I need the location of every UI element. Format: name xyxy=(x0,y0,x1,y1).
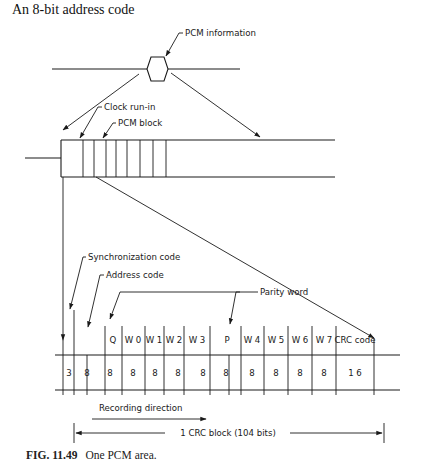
pcm-information-hexagon xyxy=(147,57,168,81)
crc-block-structure: Synchronization code Address code Parity… xyxy=(55,252,400,443)
figure-caption-text: One PCM area. xyxy=(85,449,156,461)
label-address-code: Address code xyxy=(106,270,164,280)
label-pcm-information: PCM information xyxy=(185,28,256,38)
field-label-p: P xyxy=(224,335,229,345)
field-label-w3: W 3 xyxy=(189,335,206,345)
pcm-area-diagram: PCM information Clock run-in PCM block S… xyxy=(0,0,421,473)
bits-w1: 8 xyxy=(152,368,157,378)
bits-sync: 3 xyxy=(66,368,71,378)
bits-crc: 1 6 xyxy=(348,368,362,378)
field-label-w4: W 4 xyxy=(244,335,261,345)
bits-w3: 8 xyxy=(200,368,205,378)
bits-w7: 8 xyxy=(321,368,326,378)
bits-w2: 8 xyxy=(175,368,180,378)
bits-w5: 8 xyxy=(273,368,278,378)
label-crc-block-span: 1 CRC block (104 bits) xyxy=(180,428,276,438)
field-label-w5: W 5 xyxy=(268,335,285,345)
figure-number: FIG. 11.49 xyxy=(26,449,77,461)
field-label-w0: W 0 xyxy=(125,335,142,345)
label-synchronization-code: Synchronization code xyxy=(88,252,180,262)
bits-q: 8 xyxy=(107,368,112,378)
bits-w6: 8 xyxy=(297,368,302,378)
label-pcm-block: PCM block xyxy=(118,118,162,128)
field-label-crc: CRC code xyxy=(334,335,375,345)
bits-address: 8 xyxy=(84,368,89,378)
field-label-w6: W 6 xyxy=(292,335,309,345)
field-label-w2: W 2 xyxy=(166,335,183,345)
bits-w0: 8 xyxy=(130,368,135,378)
field-label-w7: W 7 xyxy=(316,335,333,345)
label-clock-run-in: Clock run-in xyxy=(104,102,155,112)
field-label-q: Q xyxy=(110,335,117,345)
label-parity-word: Parity word xyxy=(260,287,308,297)
bits-w4: 8 xyxy=(249,368,254,378)
label-recording-direction: Recording direction xyxy=(99,403,182,413)
pcm-area-track: Clock run-in PCM block xyxy=(25,102,374,340)
field-label-w1: W 1 xyxy=(146,335,163,345)
bits-p: 8 xyxy=(223,368,228,378)
figure-caption: FIG. 11.49One PCM area. xyxy=(26,449,157,461)
